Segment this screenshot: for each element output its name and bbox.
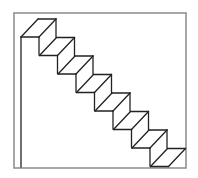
step-tread-left-edge bbox=[40, 38, 57, 56]
step-tread-left-edge bbox=[58, 56, 75, 74]
staircase-diagram bbox=[0, 0, 198, 178]
step-tread-right-edge bbox=[150, 130, 167, 148]
step-tread-right-edge bbox=[76, 56, 93, 74]
step-tread-right-edge bbox=[132, 112, 149, 130]
step-tread-left-edge bbox=[151, 149, 168, 167]
step-tread-right-edge bbox=[169, 149, 186, 167]
step-tread-left-edge bbox=[114, 112, 131, 130]
step-tread-left-edge bbox=[95, 93, 112, 111]
staircase bbox=[21, 19, 186, 167]
step-tread-left-edge bbox=[132, 130, 149, 148]
step-tread-right-edge bbox=[113, 93, 130, 111]
step-tread-right-edge bbox=[95, 75, 112, 93]
step-tread-left-edge bbox=[77, 75, 94, 93]
step-tread-right-edge bbox=[58, 38, 75, 56]
step-tread-right-edge bbox=[39, 19, 56, 37]
step-tread-left-edge bbox=[21, 19, 38, 37]
